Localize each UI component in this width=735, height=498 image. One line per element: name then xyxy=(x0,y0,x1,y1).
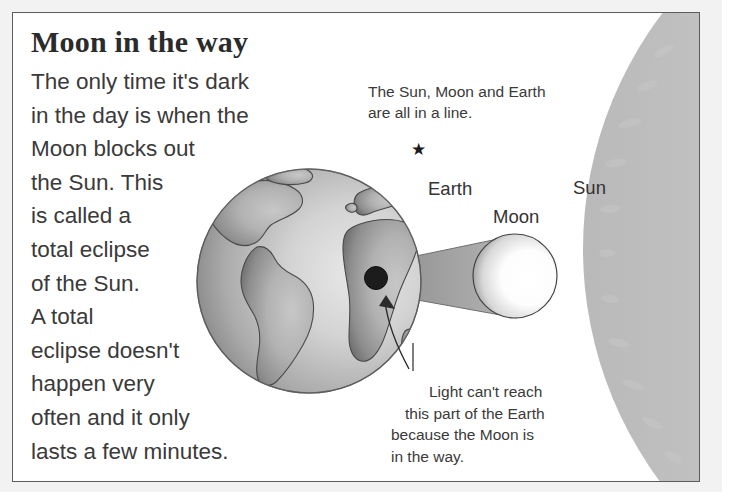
body-paragraph: The only time it's dark in the day is wh… xyxy=(31,65,341,468)
body-line: Moon blocks out xyxy=(31,132,341,166)
label-moon: Moon xyxy=(493,206,539,228)
shadow-pointer xyxy=(385,301,409,369)
label-sun: Sun xyxy=(573,177,606,199)
caption-shadow-explanation: Light can't reach this part of the Earth… xyxy=(391,381,545,467)
panel-inner: Moon in the way The only time it's dark … xyxy=(13,13,699,481)
body-line: A total xyxy=(31,300,341,334)
body-line: The only time it's dark xyxy=(31,65,341,99)
body-line: total eclipse xyxy=(31,233,341,267)
illustration-panel: Moon in the way The only time it's dark … xyxy=(12,12,700,482)
caption-line: are all in a line. xyxy=(368,102,546,123)
caption-line: because the Moon is xyxy=(391,424,545,446)
page-root: Moon in the way The only time it's dark … xyxy=(0,0,735,498)
body-line: of the Sun. xyxy=(31,267,341,301)
shadow-cone xyxy=(373,235,517,318)
body-line: in the day is when the xyxy=(31,99,341,133)
caption-line: in the way. xyxy=(391,446,545,468)
page-title: Moon in the way xyxy=(31,25,248,59)
caption-alignment: The Sun, Moon and Earth are all in a lin… xyxy=(368,81,546,123)
star-icon: ★ xyxy=(411,141,426,158)
eclipse-shadow-spot xyxy=(365,267,388,290)
caption-line: The Sun, Moon and Earth xyxy=(368,81,546,102)
sun-rays xyxy=(599,42,684,465)
body-line: lasts a few minutes. xyxy=(31,435,341,469)
shadow-pointer-arrowhead xyxy=(379,295,395,309)
body-line: happen very xyxy=(31,367,341,401)
caption-line: this part of the Earth xyxy=(391,403,545,425)
moon-body xyxy=(473,234,557,318)
body-line: is called a xyxy=(31,199,341,233)
body-line: often and it only xyxy=(31,401,341,435)
caption-line: Light can't reach xyxy=(391,381,545,403)
sun-body xyxy=(583,13,699,481)
body-line: eclipse doesn't xyxy=(31,334,341,368)
label-earth: Earth xyxy=(428,178,472,200)
body-line: the Sun. This xyxy=(31,166,341,200)
